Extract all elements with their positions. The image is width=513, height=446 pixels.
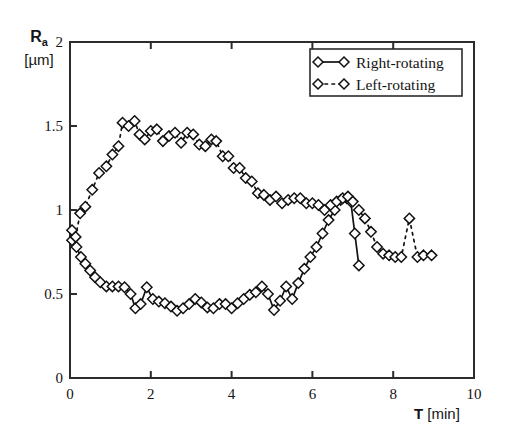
data-point-marker: [404, 213, 414, 223]
x-tick-label: 2: [147, 386, 155, 402]
legend-label: Left-rotating: [356, 76, 435, 93]
y-tick-label: 0.5: [44, 286, 63, 302]
series-line: [72, 198, 359, 311]
data-point-marker: [101, 161, 111, 171]
legend-label: Right-rotating: [356, 54, 444, 71]
x-tick-label: 0: [66, 386, 74, 402]
data-point-marker: [311, 242, 321, 252]
data-point-marker: [269, 305, 279, 315]
chart-legend: Right-rotatingLeft-rotating: [310, 49, 462, 96]
series-1: [67, 193, 364, 316]
data-point-marker: [142, 282, 152, 292]
data-point-marker: [305, 252, 315, 262]
data-point-marker: [87, 185, 97, 195]
chart-figure: 024681000.511.52 Right-rotatingLeft-rota…: [0, 0, 513, 446]
data-point-marker: [176, 138, 186, 148]
data-point-marker: [107, 149, 117, 159]
data-point-marker: [366, 227, 376, 237]
data-point-marker: [350, 228, 360, 238]
series-line: [72, 121, 432, 257]
data-point-marker: [426, 250, 436, 260]
data-point-marker: [354, 260, 364, 270]
x-tick-label: 4: [228, 386, 236, 402]
series-2: [67, 116, 437, 262]
data-point-marker: [299, 264, 309, 274]
data-series: [67, 116, 437, 316]
chart-canvas: 024681000.511.52 Right-rotatingLeft-rota…: [0, 0, 513, 446]
x-tick-label: 6: [309, 386, 317, 402]
data-point-marker: [293, 278, 303, 288]
data-point-marker: [275, 296, 285, 306]
x-tick-label: 10: [467, 386, 482, 402]
data-point-marker: [94, 168, 104, 178]
y-tick-label: 2: [56, 34, 64, 50]
data-point-marker: [317, 228, 327, 238]
y-tick-label: 0: [56, 370, 64, 386]
data-point-marker: [281, 281, 291, 291]
x-tick-label: 8: [389, 386, 397, 402]
data-point-marker: [287, 294, 297, 304]
data-point-marker: [323, 215, 333, 225]
y-tick-label: 1: [56, 202, 64, 218]
y-tick-label: 1.5: [44, 118, 63, 134]
